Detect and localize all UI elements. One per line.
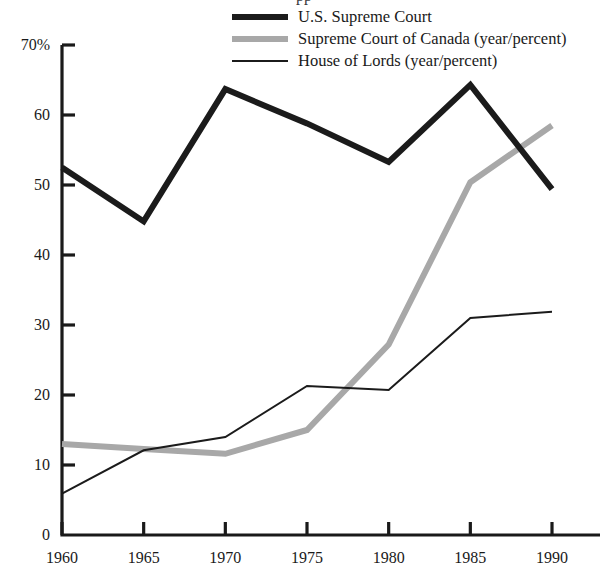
x-axis-tick-label: 1980 bbox=[373, 549, 405, 567]
series-line-house-of-lords-year-percent bbox=[62, 312, 552, 494]
x-axis-tick-label: 1990 bbox=[536, 549, 568, 567]
y-axis-tick-label: 40 bbox=[0, 246, 50, 264]
y-axis-tick-label: 70% bbox=[0, 36, 50, 54]
axis-spine bbox=[62, 45, 600, 535]
plot-area bbox=[0, 0, 612, 585]
y-axis-tick-label: 20 bbox=[0, 386, 50, 404]
chart-series bbox=[62, 85, 552, 494]
chart-container: pp U.S. Supreme Court Supreme Court of C… bbox=[0, 0, 612, 585]
x-axis-tick-label: 1965 bbox=[128, 549, 160, 567]
x-axis-tick-label: 1985 bbox=[454, 549, 486, 567]
y-axis-tick-label: 10 bbox=[0, 456, 50, 474]
y-axis-tick-label: 50 bbox=[0, 176, 50, 194]
chart-axes bbox=[62, 45, 600, 535]
y-axis-tick-label: 0 bbox=[0, 526, 50, 544]
y-axis-tick-label: 60 bbox=[0, 106, 50, 124]
x-axis-tick-label: 1960 bbox=[46, 549, 78, 567]
y-axis-tick-label: 30 bbox=[0, 316, 50, 334]
x-axis-tick-label: 1970 bbox=[209, 549, 241, 567]
series-line-supreme-court-of-canada-year-percent bbox=[62, 126, 552, 454]
series-line-u-s-supreme-court bbox=[62, 85, 552, 222]
x-axis-tick-label: 1975 bbox=[291, 549, 323, 567]
